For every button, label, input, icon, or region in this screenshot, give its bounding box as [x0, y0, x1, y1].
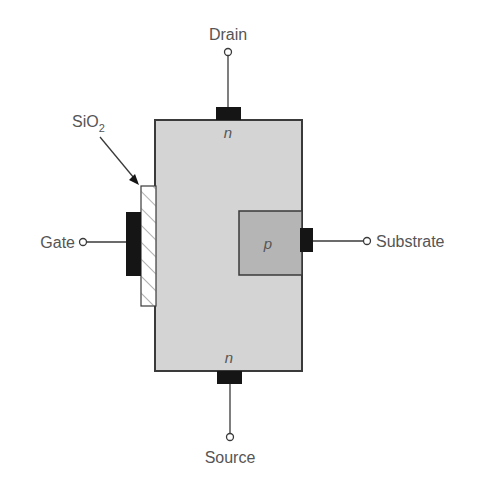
source-terminal — [227, 434, 234, 441]
gate-contact — [126, 212, 141, 276]
oxide-label: SiO2 — [72, 113, 105, 134]
drain-terminal — [225, 49, 232, 56]
oxide-hatch — [141, 186, 156, 306]
mosfet-diagram: Drain Source Gate Substrate SiO2 n n p — [0, 0, 481, 495]
drain-region-label: n — [224, 124, 232, 141]
substrate-terminal — [364, 238, 371, 245]
substrate-label: Substrate — [376, 233, 445, 250]
source-contact — [217, 371, 242, 384]
arrowhead-icon — [129, 174, 139, 185]
gate-label: Gate — [40, 234, 75, 251]
source-region-label: n — [225, 349, 233, 366]
substrate-contact — [300, 228, 313, 252]
source-label: Source — [205, 449, 256, 466]
drain-contact — [216, 107, 241, 120]
p-region-label: p — [263, 235, 272, 252]
oxide-arrow — [100, 137, 134, 178]
drain-label: Drain — [209, 26, 247, 43]
gate-terminal — [80, 239, 87, 246]
